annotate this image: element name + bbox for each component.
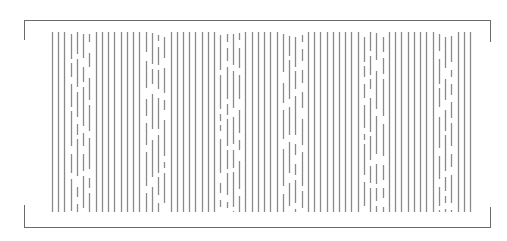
barcode-lines <box>0 0 507 241</box>
